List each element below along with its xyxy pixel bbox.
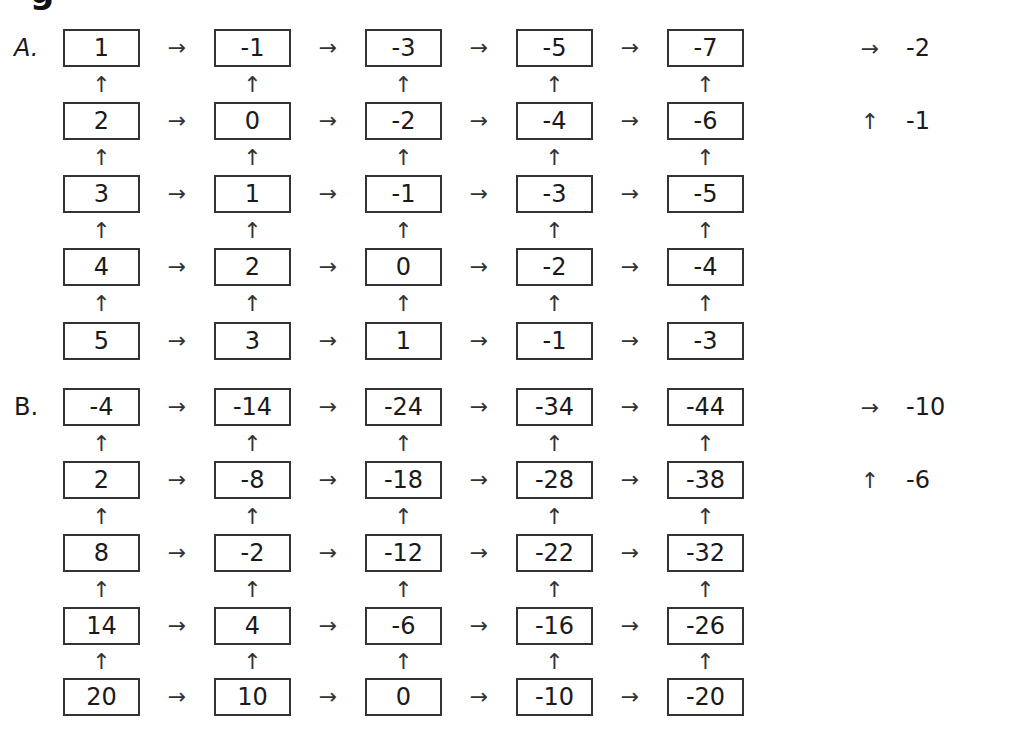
arrow-right-icon: → bbox=[157, 322, 197, 360]
arrow-up-icon: ↑ bbox=[87, 214, 117, 248]
arrow-right-icon: → bbox=[157, 607, 197, 645]
arrow-right-icon: → bbox=[459, 29, 499, 67]
grid-cell: 4 bbox=[214, 607, 291, 645]
arrow-up-icon: ↑ bbox=[540, 214, 570, 248]
arrow-right-icon: → bbox=[610, 388, 650, 426]
arrow-up-icon: ↑ bbox=[389, 500, 419, 534]
arrow-up-icon: ↑ bbox=[87, 645, 117, 679]
rule-value: -2 bbox=[906, 29, 930, 67]
arrow-right-icon: → bbox=[610, 678, 650, 716]
arrow-right-icon: → bbox=[610, 461, 650, 499]
arrow-up-icon: ↑ bbox=[691, 500, 721, 534]
grid-cell: -18 bbox=[365, 461, 442, 499]
arrow-right-icon: → bbox=[308, 322, 348, 360]
grid-cell: 2 bbox=[63, 461, 140, 499]
arrow-right-icon: → bbox=[308, 534, 348, 572]
grid-cell: 1 bbox=[214, 175, 291, 213]
arrow-up-icon: ↑ bbox=[691, 427, 721, 461]
arrow-right-icon: → bbox=[459, 461, 499, 499]
grid-cell: 1 bbox=[365, 322, 442, 360]
grid-cell: 10 bbox=[214, 678, 291, 716]
page-title-fragment: g bbox=[30, 0, 54, 8]
grid-cell: -6 bbox=[667, 102, 744, 140]
grid-cell: -20 bbox=[667, 678, 744, 716]
arrow-right-icon: → bbox=[459, 322, 499, 360]
arrow-right-icon: → bbox=[308, 607, 348, 645]
arrow-right-icon: → bbox=[308, 248, 348, 286]
arrow-up-icon: ↑ bbox=[238, 214, 268, 248]
grid-cell: -24 bbox=[365, 388, 442, 426]
arrow-up-icon: ↑ bbox=[850, 103, 890, 141]
grid-cell: -2 bbox=[214, 534, 291, 572]
section-label: B. bbox=[14, 388, 38, 426]
grid-cell: -2 bbox=[516, 248, 593, 286]
grid-cell: 8 bbox=[63, 534, 140, 572]
arrow-up-icon: ↑ bbox=[87, 287, 117, 321]
grid-cell: -10 bbox=[516, 678, 593, 716]
arrow-right-icon: → bbox=[459, 102, 499, 140]
grid-cell: -34 bbox=[516, 388, 593, 426]
grid-cell: -12 bbox=[365, 534, 442, 572]
grid-cell: -5 bbox=[667, 175, 744, 213]
arrow-up-icon: ↑ bbox=[691, 573, 721, 607]
arrow-up-icon: ↑ bbox=[238, 427, 268, 461]
arrow-right-icon: → bbox=[459, 678, 499, 716]
arrow-up-icon: ↑ bbox=[389, 141, 419, 175]
arrow-up-icon: ↑ bbox=[87, 500, 117, 534]
grid-cell: -8 bbox=[214, 461, 291, 499]
arrow-right-icon: → bbox=[459, 534, 499, 572]
arrow-up-icon: ↑ bbox=[540, 645, 570, 679]
rule-value: -10 bbox=[906, 388, 945, 426]
arrow-up-icon: ↑ bbox=[87, 141, 117, 175]
arrow-right-icon: → bbox=[308, 175, 348, 213]
arrow-right-icon: → bbox=[610, 607, 650, 645]
arrow-up-icon: ↑ bbox=[540, 68, 570, 102]
grid-cell: -38 bbox=[667, 461, 744, 499]
arrow-right-icon: → bbox=[610, 29, 650, 67]
arrow-right-icon: → bbox=[610, 248, 650, 286]
arrow-right-icon: → bbox=[308, 461, 348, 499]
grid-cell: -1 bbox=[365, 175, 442, 213]
arrow-right-icon: → bbox=[308, 678, 348, 716]
grid-cell: -2 bbox=[365, 102, 442, 140]
grid-cell: 2 bbox=[214, 248, 291, 286]
arrow-up-icon: ↑ bbox=[238, 573, 268, 607]
arrow-right-icon: → bbox=[308, 388, 348, 426]
arrow-up-icon: ↑ bbox=[389, 645, 419, 679]
arrow-up-icon: ↑ bbox=[540, 287, 570, 321]
grid-cell: 1 bbox=[63, 29, 140, 67]
grid-cell: 3 bbox=[214, 322, 291, 360]
grid-cell: 20 bbox=[63, 678, 140, 716]
arrow-right-icon: → bbox=[308, 29, 348, 67]
arrow-up-icon: ↑ bbox=[389, 214, 419, 248]
arrow-up-icon: ↑ bbox=[389, 573, 419, 607]
arrow-up-icon: ↑ bbox=[389, 287, 419, 321]
grid-cell: 3 bbox=[63, 175, 140, 213]
arrow-right-icon: → bbox=[308, 102, 348, 140]
arrow-right-icon: → bbox=[157, 461, 197, 499]
arrow-right-icon: → bbox=[610, 322, 650, 360]
arrow-right-icon: → bbox=[157, 175, 197, 213]
arrow-up-icon: ↑ bbox=[850, 462, 890, 500]
arrow-right-icon: → bbox=[157, 534, 197, 572]
arrow-up-icon: ↑ bbox=[540, 500, 570, 534]
grid-cell: -22 bbox=[516, 534, 593, 572]
right-rule: →-2 bbox=[850, 29, 930, 67]
arrow-right-icon: → bbox=[850, 389, 890, 427]
rule-value: -6 bbox=[906, 461, 930, 499]
up-rule: ↑-6 bbox=[850, 461, 930, 499]
arrow-right-icon: → bbox=[850, 30, 890, 68]
grid-cell: -1 bbox=[214, 29, 291, 67]
arrow-right-icon: → bbox=[610, 102, 650, 140]
arrow-up-icon: ↑ bbox=[691, 141, 721, 175]
arrow-up-icon: ↑ bbox=[238, 287, 268, 321]
arrow-up-icon: ↑ bbox=[238, 68, 268, 102]
grid-cell: -14 bbox=[214, 388, 291, 426]
arrow-right-icon: → bbox=[459, 175, 499, 213]
arrow-right-icon: → bbox=[610, 534, 650, 572]
arrow-right-icon: → bbox=[157, 678, 197, 716]
grid-cell: -4 bbox=[667, 248, 744, 286]
arrow-right-icon: → bbox=[610, 175, 650, 213]
grid-cell: 0 bbox=[365, 248, 442, 286]
section-label: A. bbox=[14, 29, 39, 67]
